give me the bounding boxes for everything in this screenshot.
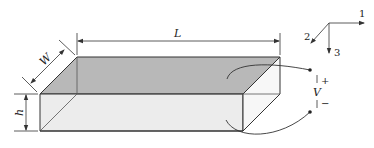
positive-terminal: [308, 68, 312, 72]
coordinate-axes: 1 2 3: [304, 8, 365, 58]
length-label: L: [173, 27, 181, 40]
negative-terminal: [308, 110, 312, 114]
axis-3-label: 3: [334, 47, 340, 58]
piezo-element-diagram: L W h V + − 1 2 3: [0, 0, 374, 148]
height-dimension: h: [13, 94, 38, 131]
top-face: [40, 57, 280, 94]
height-label: h: [13, 109, 26, 116]
minus-sign: −: [321, 98, 329, 109]
voltage-annotation: V + −: [313, 75, 329, 109]
axis-2-label: 2: [304, 31, 310, 42]
front-face: [40, 94, 243, 131]
width-label: W: [37, 50, 55, 68]
plus-sign: +: [321, 75, 329, 86]
rectangular-block: [40, 57, 280, 131]
length-dimension: L: [77, 27, 280, 55]
axis-1-label: 1: [359, 8, 365, 19]
axis-2-arrow: [311, 23, 329, 43]
